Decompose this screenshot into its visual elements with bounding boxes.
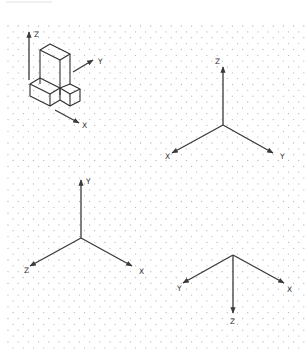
left-base-block (30, 78, 60, 106)
y-axis-label: Y (279, 152, 285, 161)
diagram-canvas: Z Y X Z X Y (0, 0, 307, 351)
z-axis-label: Z (24, 266, 29, 275)
tall-block (40, 44, 70, 95)
panel-axes-z-up: Z X Y (165, 57, 285, 161)
y-axis-label: Y (97, 57, 103, 66)
x-axis-label: X (165, 152, 170, 161)
isometric-dot-grid (7, 25, 304, 348)
x-axis-arrow (81, 238, 132, 266)
z-axis-label: Z (34, 30, 39, 39)
z-axis-label: Z (230, 317, 235, 326)
x-axis-arrow (172, 125, 223, 153)
x-axis-label: X (139, 267, 144, 276)
y-axis-arrow (73, 60, 93, 72)
z-axis-label: Z (215, 57, 220, 66)
right-base-block (60, 84, 80, 106)
x-axis-arrow (55, 110, 79, 123)
x-axis-label: X (82, 121, 87, 130)
panel-block-figure: Z Y X (29, 30, 103, 130)
panel-axes-y-up: Y Z X (24, 177, 144, 276)
y-axis-label: Y (176, 284, 182, 293)
x-axis-label: X (287, 285, 292, 294)
panel-axes-z-down: Y X Z (176, 255, 292, 326)
x-axis-arrow (233, 255, 284, 283)
z-axis-arrow (30, 238, 81, 266)
y-axis-label: Y (85, 177, 91, 186)
y-axis-arrow (183, 255, 233, 283)
